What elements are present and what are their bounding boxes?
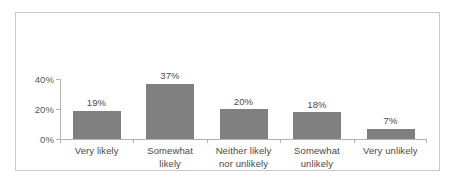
bar-slot-somewhat-unlikely: 18% (280, 79, 354, 139)
x-axis-tick-1 (133, 139, 134, 143)
category-label-line: Somewhat (280, 145, 353, 158)
category-label-somewhat-unlikely: Somewhat unlikely (280, 144, 353, 178)
category-axis-line (60, 139, 427, 140)
plot-area: 40% 20% 0% 19% 37% 20% 18% (60, 79, 427, 139)
category-label-very-likely: Very likely (60, 144, 133, 178)
x-axis-tick-2 (207, 139, 208, 143)
category-label-line: Very unlikely (354, 145, 427, 158)
bar-slot-very-unlikely: 7% (354, 79, 427, 139)
category-label-neither-likely-nor-unlikely: Neither likely nor unlikely (207, 144, 280, 178)
category-label-line: likely (133, 158, 206, 171)
bar-very-likely[interactable] (73, 111, 121, 140)
bar-somewhat-likely[interactable] (146, 84, 194, 140)
bar-value-very-likely: 19% (87, 97, 106, 108)
bar-value-somewhat-unlikely: 18% (307, 99, 326, 110)
bar-very-unlikely[interactable] (367, 129, 415, 140)
bar-value-somewhat-likely: 37% (160, 70, 179, 81)
y-axis-label-20: 20% (35, 104, 54, 115)
category-label-somewhat-likely: Somewhat likely (133, 144, 206, 178)
category-label-line: Somewhat (133, 145, 206, 158)
bar-value-very-unlikely: 7% (384, 115, 398, 126)
bar-slot-neither-likely-nor-unlikely: 20% (207, 79, 280, 139)
chart-container: 40% 20% 0% 19% 37% 20% 18% (15, 12, 440, 171)
category-label-line: Very likely (60, 145, 133, 158)
category-label-line: Neither likely (207, 145, 280, 158)
category-label-line: unlikely (280, 158, 353, 171)
y-axis-label-40: 40% (35, 74, 54, 85)
bar-slot-somewhat-likely: 37% (133, 79, 207, 139)
bar-neither-likely-nor-unlikely[interactable] (220, 109, 268, 139)
x-axis-tick-0 (60, 139, 61, 143)
bar-slot-very-likely: 19% (60, 79, 133, 139)
x-axis-tick-4 (354, 139, 355, 143)
category-axis-labels: Very likely Somewhat likely Neither like… (60, 144, 427, 178)
x-axis-tick-3 (280, 139, 281, 143)
bar-value-neither-likely-nor-unlikely: 20% (234, 96, 253, 107)
x-axis-tick-5 (426, 139, 427, 143)
category-label-line: nor unlikely (207, 158, 280, 171)
category-label-very-unlikely: Very unlikely (354, 144, 427, 178)
bar-somewhat-unlikely[interactable] (293, 112, 341, 139)
y-axis-label-0: 0% (40, 134, 54, 145)
